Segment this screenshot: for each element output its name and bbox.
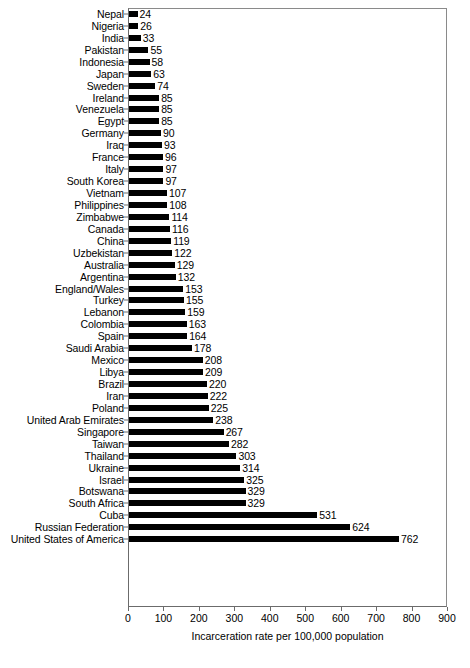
- y-axis-tick: [124, 157, 128, 158]
- bar-value-label: 96: [165, 152, 176, 163]
- bar-row: Brazil220: [0, 378, 470, 390]
- x-axis-title: Incarceration rate per 100,000 populatio…: [128, 630, 447, 643]
- category-label: Zimbabwe: [76, 211, 124, 222]
- bar-value-label: 85: [161, 92, 172, 103]
- bar: [129, 512, 317, 518]
- bar-row: Singapore267: [0, 426, 470, 438]
- bar-row: Indonesia58: [0, 56, 470, 68]
- x-axis-tick-label: 500: [296, 612, 314, 625]
- category-label: Thailand: [85, 450, 124, 461]
- x-axis-tick-label: 800: [403, 612, 421, 625]
- bar: [129, 35, 141, 41]
- category-label: Iraq: [106, 140, 124, 151]
- incarceration-rate-bar-chart: Nepal24Nigeria26India33Pakistan55Indones…: [0, 0, 470, 668]
- category-label: Libya: [99, 367, 124, 378]
- y-axis-tick: [124, 97, 128, 98]
- bar: [129, 166, 163, 172]
- bar: [129, 190, 167, 196]
- y-axis-tick: [124, 288, 128, 289]
- bar: [129, 47, 148, 53]
- category-label: Taiwan: [92, 438, 124, 449]
- bar: [129, 118, 159, 124]
- y-axis-tick: [124, 539, 128, 540]
- bar: [129, 381, 207, 387]
- y-axis-tick: [124, 467, 128, 468]
- category-label: United Arab Emirates: [27, 414, 124, 425]
- y-axis-tick: [124, 264, 128, 265]
- category-label: Philippines: [74, 199, 124, 210]
- bar-row: Japan63: [0, 68, 470, 80]
- y-axis-tick: [124, 121, 128, 122]
- bar-value-label: 220: [209, 379, 226, 390]
- bar-value-label: 93: [164, 140, 175, 151]
- bar-row: Colombia163: [0, 318, 470, 330]
- bar: [129, 524, 350, 530]
- bar-row: Canada116: [0, 223, 470, 235]
- bar-row: Taiwan282: [0, 438, 470, 450]
- bar-row: China119: [0, 235, 470, 247]
- bar-row: Botswana329: [0, 486, 470, 498]
- y-axis-tick: [124, 169, 128, 170]
- y-axis-tick: [124, 527, 128, 528]
- bar: [129, 95, 159, 101]
- bar-row: Italy97: [0, 163, 470, 175]
- y-axis-tick: [124, 336, 128, 337]
- y-axis-tick: [124, 61, 128, 62]
- x-axis-tick: [447, 607, 448, 611]
- bar-value-label: 164: [189, 331, 206, 342]
- bar-value-label: 178: [194, 343, 211, 354]
- bar-row: United States of America762: [0, 533, 470, 545]
- bar-row: Poland225: [0, 402, 470, 414]
- bar-value-label: 225: [211, 402, 228, 413]
- bar-value-label: 153: [185, 283, 202, 294]
- category-label: Colombia: [80, 319, 124, 330]
- bar-value-label: 122: [174, 247, 191, 258]
- bar-value-label: 107: [169, 188, 186, 199]
- bar-row: France96: [0, 151, 470, 163]
- bar: [129, 297, 184, 303]
- bar: [129, 130, 161, 136]
- x-axis-tick-labels: 0100200300400500600700800900: [0, 612, 470, 626]
- bar: [129, 238, 171, 244]
- x-axis-tick: [341, 607, 342, 611]
- y-axis-tick: [124, 145, 128, 146]
- bar-value-label: 24: [140, 8, 151, 19]
- bar-row: Uzbekistan122: [0, 247, 470, 259]
- bar: [129, 59, 150, 65]
- bar: [129, 262, 175, 268]
- category-label: Italy: [105, 164, 124, 175]
- y-axis-tick: [124, 407, 128, 408]
- bar: [129, 106, 159, 112]
- category-label: China: [97, 235, 124, 246]
- y-axis-tick: [124, 503, 128, 504]
- bar-row: Iraq93: [0, 139, 470, 151]
- bar-row: India33: [0, 32, 470, 44]
- bar-row: Philippines108: [0, 199, 470, 211]
- y-axis-tick: [124, 252, 128, 253]
- bar: [129, 178, 163, 184]
- bar-row: South Korea97: [0, 175, 470, 187]
- bar-row: Germany90: [0, 127, 470, 139]
- bar-value-label: 114: [171, 211, 187, 222]
- bar: [129, 202, 167, 208]
- bar: [129, 333, 187, 339]
- bar: [129, 321, 187, 327]
- bar-value-label: 762: [401, 534, 418, 545]
- bar-value-label: 159: [187, 307, 204, 318]
- bar: [129, 405, 209, 411]
- y-axis-tick: [124, 300, 128, 301]
- bar: [129, 465, 240, 471]
- category-label: Israel: [99, 474, 124, 485]
- y-axis-tick: [124, 443, 128, 444]
- bar: [129, 488, 246, 494]
- bar-value-label: 267: [226, 426, 243, 437]
- bar-row: Zimbabwe114: [0, 211, 470, 223]
- bar-value-label: 129: [177, 259, 194, 270]
- y-axis-tick: [124, 515, 128, 516]
- bar-row: South Africa329: [0, 497, 470, 509]
- x-axis-tick-label: 900: [438, 612, 456, 625]
- bar-row: United Arab Emirates238: [0, 414, 470, 426]
- bar-value-label: 222: [210, 390, 227, 401]
- bar: [129, 417, 213, 423]
- bar: [129, 226, 170, 232]
